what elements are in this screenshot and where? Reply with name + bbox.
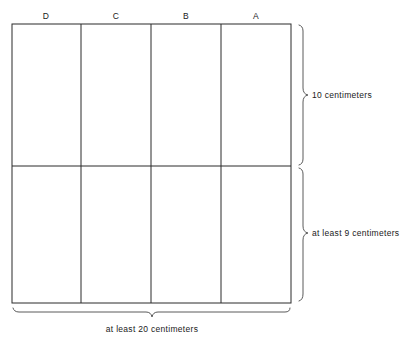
brace-right-bottom [299,168,308,301]
dimension-label-height-bottom: at least 9 centimeters [312,228,399,239]
brace-right-top [299,25,308,165]
column-label-d: D [26,11,66,21]
brace-bottom [13,308,290,317]
dimension-diagram: D C B A 10 centimeters at least 9 centim… [0,0,415,339]
dimension-label-height-top: 10 centimeters [312,90,372,101]
dimension-label-width: at least 20 centimeters [12,324,292,335]
column-label-b: B [166,11,206,21]
diagram-canvas [0,0,415,339]
column-label-c: C [96,11,136,21]
column-label-a: A [236,11,276,21]
